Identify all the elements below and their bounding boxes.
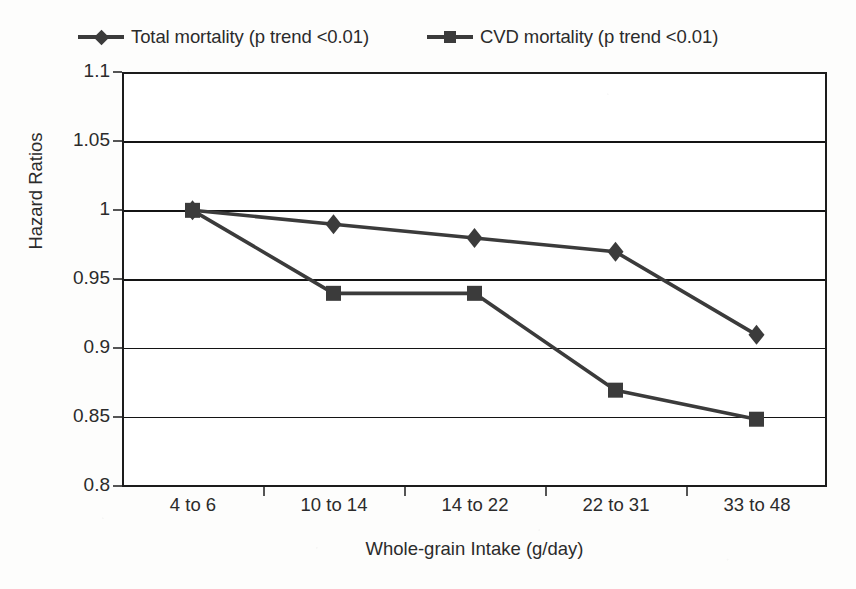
x-tick-label-10-to-14: 10 to 14 [254,494,414,516]
x-tick-mark-1 [263,487,265,496]
y-tick-label-0.95: 0.95 [14,267,110,289]
x-tick-label-22-to-31: 22 to 31 [536,494,696,516]
y-tick-mark-0.9 [113,347,122,349]
y-tick-mark-0.85 [113,416,122,418]
x-tick-mark-2 [404,487,406,496]
y-tick-label-0.8: 0.8 [14,474,110,496]
y-tick-mark-1.05 [113,140,122,142]
y-tick-mark-1 [113,209,122,211]
y-tick-label-1: 1 [14,198,110,220]
x-tick-mark-4 [686,487,688,496]
y-tick-label-0.9: 0.9 [14,336,110,358]
x-tick-label-33-to-48: 33 to 48 [677,494,837,516]
x-tick-label-14-to-22: 14 to 22 [395,494,555,516]
x-tick-label-4-to-6: 4 to 6 [113,494,273,516]
y-tick-label-0.85: 0.85 [14,405,110,427]
y-tick-label-1.1: 1.1 [14,60,110,82]
y-tick-label-1.05: 1.05 [14,129,110,151]
y-tick-mark-1.1 [113,71,122,73]
x-axis-title: Whole-grain Intake (g/day) [122,538,827,560]
chart-figure: Total mortality (p trend <0.01) CVD mort… [0,0,856,589]
x-tick-mark-3 [545,487,547,496]
y-tick-mark-0.95 [113,278,122,280]
y-tick-mark-0.8 [113,485,122,487]
